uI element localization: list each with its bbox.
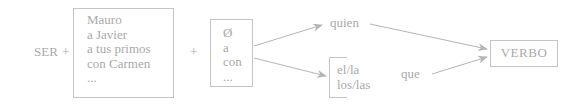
arrow-quien-to-verbo: [370, 24, 487, 49]
arrows-layer: [0, 0, 584, 107]
arrow-to-article: [254, 58, 326, 76]
arrow-que-to-verbo: [432, 57, 487, 74]
arrow-to-quien: [254, 25, 322, 46]
